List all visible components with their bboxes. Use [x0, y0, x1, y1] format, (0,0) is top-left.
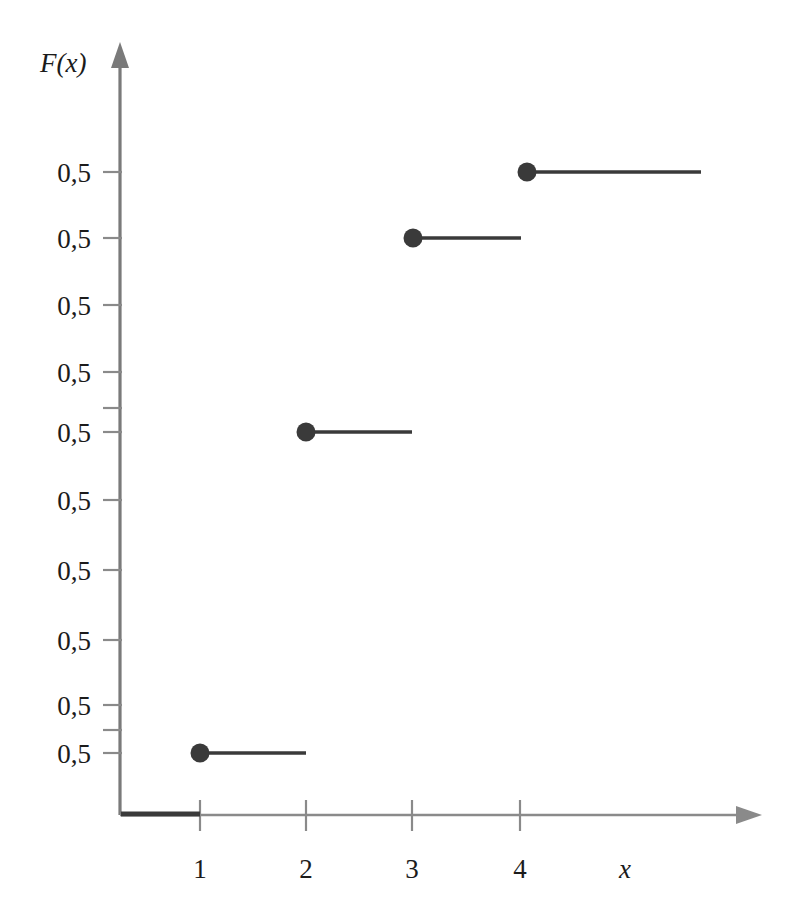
y-tick-label: 0,5 — [57, 739, 91, 769]
y-tick-label: 0,5 — [57, 691, 91, 721]
y-axis — [111, 42, 129, 815]
y-axis-arrowhead — [111, 42, 129, 68]
x-axis-tick-labels: 1 2 3 4 — [193, 854, 527, 884]
x-tick-label: 3 — [405, 854, 419, 884]
x-axis-label: x — [618, 854, 631, 884]
y-tick-label: 0,5 — [57, 291, 91, 321]
y-tick-label: 0,5 — [57, 486, 91, 516]
data-point-marker — [518, 163, 537, 182]
step-function-chart: 0,5 0,5 0,5 0,5 0,5 0,5 0,5 0,5 0,5 0,5 … — [0, 0, 790, 915]
x-tick-label: 4 — [513, 854, 527, 884]
y-axis-tick-labels: 0,5 0,5 0,5 0,5 0,5 0,5 0,5 0,5 0,5 0,5 — [57, 158, 91, 769]
y-tick-label: 0,5 — [57, 556, 91, 586]
y-tick-label: 0,5 — [57, 224, 91, 254]
y-axis-label: F(x) — [39, 48, 86, 78]
x-tick-label: 2 — [299, 854, 313, 884]
data-point-marker — [404, 229, 423, 248]
y-tick-label: 0,5 — [57, 418, 91, 448]
x-tick-label: 1 — [193, 854, 207, 884]
y-tick-label: 0,5 — [57, 626, 91, 656]
y-tick-label: 0,5 — [57, 358, 91, 388]
page-caption — [0, 901, 790, 915]
data-point-marker — [297, 423, 316, 442]
x-axis-arrowhead — [736, 806, 762, 824]
figure-container: 0,5 0,5 0,5 0,5 0,5 0,5 0,5 0,5 0,5 0,5 … — [0, 0, 790, 915]
x-axis — [120, 806, 762, 824]
y-tick-label: 0,5 — [57, 158, 91, 188]
step-markers — [191, 163, 537, 763]
step-segments — [199, 172, 701, 753]
data-point-marker — [191, 744, 210, 763]
